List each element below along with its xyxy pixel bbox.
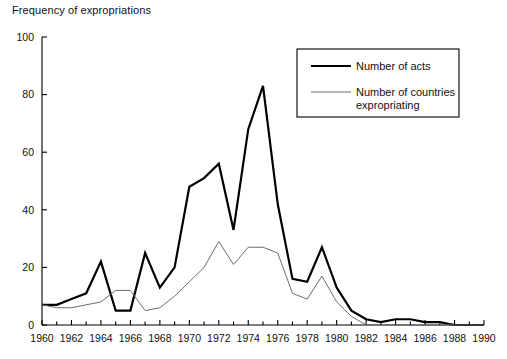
chart-container: Frequency of expropriations 020406080100… [0, 0, 507, 359]
y-tick-label: 80 [22, 88, 34, 100]
x-tick-label: 1964 [89, 332, 113, 344]
data-series-layer [42, 86, 484, 325]
x-tick-label: 1976 [266, 332, 290, 344]
x-tick-label: 1972 [207, 332, 231, 344]
x-tick-label: 1984 [384, 332, 408, 344]
x-tick-label: 1988 [443, 332, 467, 344]
x-tick-label: 1986 [413, 332, 437, 344]
legend-label: Number of countries [356, 86, 456, 98]
x-tick-label: 1960 [30, 332, 54, 344]
y-tick-label: 0 [28, 319, 34, 331]
x-tick-label: 1962 [60, 332, 84, 344]
y-tick-label: 40 [22, 204, 34, 216]
x-tick-label: 1978 [296, 332, 320, 344]
x-tick-label: 1974 [237, 332, 261, 344]
x-tick-label: 1966 [119, 332, 143, 344]
legend-label-continued: expropriating [356, 99, 420, 111]
x-tick-label: 1990 [472, 332, 496, 344]
y-axis: 020406080100 [16, 31, 47, 331]
y-tick-label: 20 [22, 261, 34, 273]
chart-legend: Number of actsNumber of countriesexpropr… [297, 49, 459, 117]
x-axis: 1960196219641966196819701972197419761978… [30, 320, 496, 344]
y-tick-label: 100 [16, 31, 34, 43]
x-tick-label: 1970 [178, 332, 202, 344]
legend-label: Number of acts [356, 60, 431, 72]
y-tick-label: 60 [22, 146, 34, 158]
x-tick-label: 1980 [325, 332, 349, 344]
x-tick-label: 1982 [354, 332, 378, 344]
line-chart-plot: 020406080100 196019621964196619681970197… [0, 0, 507, 359]
x-tick-label: 1968 [148, 332, 172, 344]
x-axis-tick-labels: 1960196219641966196819701972197419761978… [30, 332, 496, 344]
series-line [42, 86, 484, 325]
y-axis-ticks [42, 37, 47, 325]
y-axis-tick-labels: 020406080100 [16, 31, 34, 331]
